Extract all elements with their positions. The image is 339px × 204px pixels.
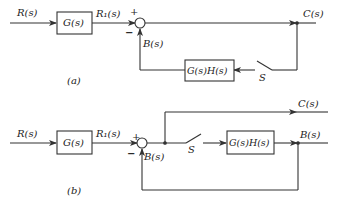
- r1-label-a: R₁(s): [96, 9, 120, 19]
- b-label-out-b: B(s): [300, 130, 320, 140]
- plus-sign-a: +: [130, 7, 138, 17]
- input-label-b: R(s): [17, 129, 37, 139]
- b-label-a: B(s): [143, 39, 163, 49]
- gh-block-label-a: G(s)H(s): [187, 66, 227, 76]
- input-label-a: R(s): [17, 8, 37, 18]
- minus-sign-b: −: [127, 149, 135, 159]
- gh-block-label-b: G(s)H(s): [229, 138, 269, 148]
- b-label-sum-b: B(s): [144, 152, 164, 162]
- caption-a: (a): [67, 76, 81, 86]
- g-block-label-b: G(s): [63, 138, 84, 148]
- switch-s-a: [257, 61, 272, 70]
- g-block-label-a: G(s): [63, 18, 84, 28]
- output-label-b: C(s): [298, 99, 319, 109]
- output-label-a: C(s): [303, 9, 324, 19]
- switch-label-b: S: [188, 145, 195, 155]
- block-diagram-canvas: [0, 0, 339, 204]
- caption-b: (b): [67, 186, 81, 196]
- minus-sign-a: −: [125, 28, 133, 38]
- switch-label-a: S: [259, 73, 266, 83]
- r1-label-b: R₁(s): [96, 129, 120, 139]
- summing-junction-a: [135, 18, 145, 28]
- diagram-b: [10, 112, 328, 190]
- switch-s-b: [186, 134, 201, 143]
- plus-sign-b: +: [132, 132, 140, 142]
